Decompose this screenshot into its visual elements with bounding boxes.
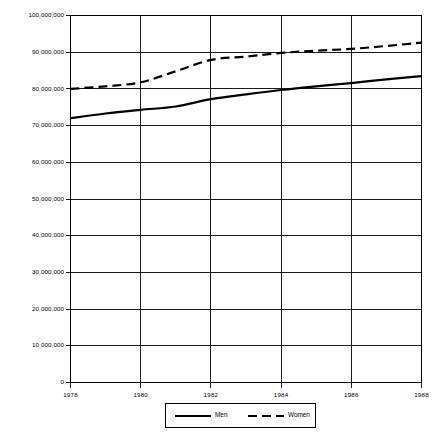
- legend-label-women: Women: [288, 412, 310, 418]
- legend-swatch-dashed-icon: [248, 412, 284, 420]
- legend-item-men: Men: [175, 404, 227, 427]
- legend-label-men: Men: [215, 412, 227, 418]
- x-axis-tick-label: 1988: [414, 392, 429, 398]
- x-axis-tick-label: 1978: [63, 392, 78, 398]
- x-axis-tick-label: 1980: [133, 392, 148, 398]
- x-axis-tick-label: 1984: [274, 392, 289, 398]
- legend-item-women: Women: [248, 404, 310, 427]
- line-chart: 010,000,00020,000,00030,000,00040,000,00…: [0, 0, 438, 438]
- chart-legend: Men Women: [165, 403, 316, 428]
- x-axis-tick-label: 1982: [204, 392, 219, 398]
- x-axis-tick-label: 1986: [344, 392, 359, 398]
- x-axis-tick-labels: 197819801982198419861988: [0, 0, 438, 438]
- legend-swatch-solid-icon: [175, 412, 211, 420]
